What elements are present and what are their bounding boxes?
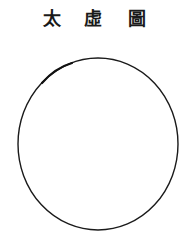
taixu-circle-diagram [0, 0, 193, 244]
ink-thick-stroke [42, 63, 72, 83]
